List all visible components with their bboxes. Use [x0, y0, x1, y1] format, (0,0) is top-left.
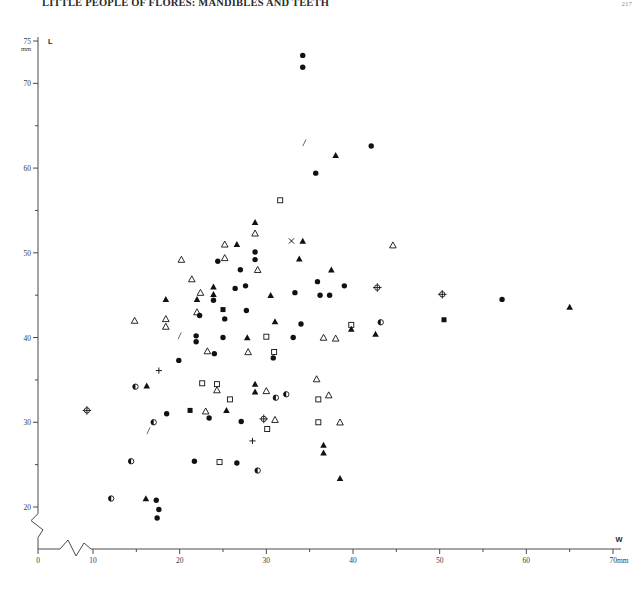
y-tick-label: 50: [24, 249, 32, 258]
data-point-half-circle: [284, 392, 289, 397]
data-point-filled-circle: [317, 292, 322, 297]
data-point-open-triangle: [163, 323, 170, 329]
data-point-filled-triangle: [320, 449, 327, 455]
data-point-open-triangle: [252, 230, 259, 236]
data-point-plus: [156, 367, 162, 373]
data-point-filled-triangle: [372, 331, 379, 337]
data-point-half-circle: [378, 320, 383, 325]
data-point-filled-square: [221, 307, 226, 312]
data-point-filled-circle: [243, 283, 248, 288]
data-point-filled-triangle: [299, 238, 306, 244]
data-point-filled-triangle: [320, 442, 327, 448]
data-point-cross-circle: [438, 290, 447, 299]
data-point-open-square: [227, 397, 232, 402]
data-point-filled-triangle: [244, 334, 251, 340]
data-point-open-square: [200, 381, 205, 386]
data-point-filled-circle: [300, 53, 305, 58]
x-axis-label: W: [615, 535, 623, 544]
data-point-open-triangle: [263, 388, 270, 394]
data-point-filled-circle: [315, 279, 320, 284]
data-point-filled-triangle: [337, 475, 344, 481]
data-point-filled-triangle: [566, 304, 573, 310]
data-point-filled-circle: [193, 339, 198, 344]
x-axis-break: [60, 540, 91, 556]
data-point-filled-circle: [164, 411, 169, 416]
data-point-filled-triangle: [252, 388, 259, 394]
data-point-open-triangle: [221, 255, 228, 261]
data-point-open-triangle: [390, 242, 397, 248]
data-point-half-circle: [255, 468, 260, 473]
data-point-filled-triangle: [272, 318, 279, 324]
data-point-half-circle: [133, 384, 138, 389]
x-tick-label: 10: [89, 556, 97, 565]
data-point-filled-circle: [220, 335, 225, 340]
data-point-filled-circle: [197, 313, 202, 318]
data-point-filled-triangle: [143, 383, 150, 389]
data-point-open-square: [265, 427, 270, 432]
data-point-open-triangle: [332, 335, 339, 341]
data-point-filled-circle: [212, 351, 217, 356]
data-point-filled-circle: [271, 355, 276, 360]
data-point-filled-circle: [252, 249, 257, 254]
y-axis-break: [31, 514, 43, 549]
data-point-filled-circle: [215, 259, 220, 264]
data-point-half-circle: [273, 395, 278, 400]
data-point-plus: [249, 438, 255, 444]
data-point-filled-circle: [369, 143, 374, 148]
data-point-filled-triangle: [234, 241, 241, 247]
data-point-filled-circle: [252, 257, 257, 262]
y-tick-label: 30: [24, 418, 32, 427]
data-point-open-triangle: [163, 316, 170, 322]
data-point-open-triangle: [204, 348, 211, 354]
data-point-open-triangle: [245, 349, 252, 355]
data-point-filled-circle: [327, 292, 332, 297]
data-point-filled-triangle: [252, 381, 259, 387]
data-point-filled-square: [188, 408, 193, 413]
data-point-filled-circle: [154, 498, 159, 503]
data-point-open-triangle: [313, 376, 320, 382]
y-axis-unit: mm: [21, 45, 31, 52]
scatter-plot: 20304050607075mmL010203040506070mmW: [0, 0, 638, 593]
x-tick-label: 40: [349, 556, 357, 565]
x-tick-label: 0: [36, 556, 40, 565]
data-point-open-square: [278, 198, 283, 203]
x-tick-label: 60: [523, 556, 531, 565]
data-point-open-square: [316, 420, 321, 425]
data-point-cross-circle: [373, 283, 382, 292]
data-point-filled-triangle: [328, 266, 335, 272]
data-point-open-square: [217, 460, 222, 465]
data-point-filled-circle: [238, 267, 243, 272]
data-point-filled-circle: [499, 297, 504, 302]
data-point-half-circle: [151, 420, 156, 425]
data-point-open-triangle: [202, 408, 209, 414]
y-tick-label: 60: [24, 164, 32, 173]
x-tick-label: 20: [176, 556, 184, 565]
data-point-filled-circle: [244, 308, 249, 313]
data-point-open-triangle: [214, 387, 221, 393]
data-point-filled-circle: [298, 321, 303, 326]
data-point-filled-triangle: [332, 152, 339, 158]
data-point-open-square: [272, 349, 277, 354]
data-point-filled-triangle: [163, 296, 170, 302]
data-point-slash: [147, 427, 150, 434]
data-point-filled-circle: [211, 298, 216, 303]
data-point-filled-circle: [156, 507, 161, 512]
x-tick-label: 50: [436, 556, 444, 565]
data-point-open-triangle: [272, 416, 279, 422]
data-point-filled-triangle: [210, 283, 217, 289]
data-point-open-triangle: [197, 289, 204, 295]
data-point-filled-circle: [232, 286, 237, 291]
data-point-filled-circle: [292, 290, 297, 295]
x-tick-label: 30: [263, 556, 271, 565]
data-point-filled-circle: [176, 358, 181, 363]
data-point-cross-circle: [83, 406, 92, 415]
data-point-filled-circle: [206, 415, 211, 420]
data-point-filled-triangle: [223, 407, 230, 413]
data-point-half-circle: [128, 459, 133, 464]
data-point-filled-circle: [154, 515, 159, 520]
data-point-filled-circle: [234, 460, 239, 465]
data-point-open-triangle: [320, 334, 327, 340]
data-point-filled-circle: [313, 170, 318, 175]
data-point-filled-circle: [300, 65, 305, 70]
data-point-filled-circle: [342, 283, 347, 288]
